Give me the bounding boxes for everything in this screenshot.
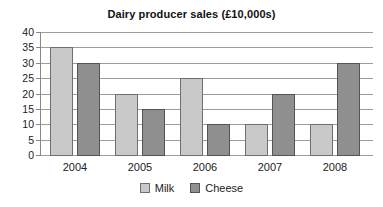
y-axis-label-40: 40: [0, 26, 34, 38]
y-axis-label-5: 5: [0, 134, 34, 146]
plot-area: 051015202530354020042005200620072008: [0, 0, 383, 207]
bar-milk-2006: [180, 78, 203, 156]
y-axis-label-15: 15: [0, 103, 34, 115]
bar-cheese-2005: [142, 109, 165, 156]
legend-label-milk: Milk: [155, 182, 175, 194]
y-axis-label-30: 30: [0, 57, 34, 69]
bar-milk-2004: [50, 47, 73, 156]
bar-cheese-2008: [337, 63, 360, 156]
cheese-swatch-icon: [190, 183, 200, 193]
y-axis-label-35: 35: [0, 41, 34, 53]
legend-item-milk: Milk: [140, 182, 175, 194]
milk-swatch-icon: [140, 183, 150, 193]
bar-cheese-2004: [77, 63, 100, 156]
bar-cheese-2007: [272, 94, 295, 157]
gridline-35: [40, 47, 373, 48]
y-axis-line: [40, 32, 41, 156]
bar-milk-2008: [310, 124, 333, 156]
y-axis-label-20: 20: [0, 88, 34, 100]
gridline-40: [40, 32, 373, 33]
y-axis-label-0: 0: [0, 149, 34, 161]
legend: Milk Cheese: [0, 182, 383, 194]
bar-milk-2007: [245, 124, 268, 156]
y-axis-label-25: 25: [0, 72, 34, 84]
dairy-sales-chart-figure: Dairy producer sales (£10,000s) 05101520…: [0, 0, 383, 207]
legend-item-cheese: Cheese: [190, 182, 243, 194]
legend-label-cheese: Cheese: [205, 182, 243, 194]
y-axis-label-10: 10: [0, 118, 34, 130]
bar-milk-2005: [115, 94, 138, 157]
x-axis-label-2008: 2008: [296, 161, 374, 173]
bar-cheese-2006: [207, 124, 230, 156]
